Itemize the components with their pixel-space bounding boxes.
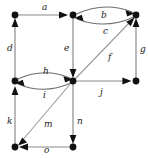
edge-label-b: b: [101, 11, 107, 20]
node-bottom-middle[interactable]: [70, 144, 77, 151]
node-center[interactable]: [70, 78, 77, 85]
edge-label-d: d: [7, 44, 13, 53]
edge-label-k: k: [7, 117, 12, 126]
edge-g: [133, 18, 140, 80]
edge-label-f: f: [108, 53, 111, 62]
edge-k: [12, 86, 19, 146]
edge-a: [16, 12, 68, 19]
edge-label-i: i: [43, 91, 46, 100]
graph-figure: a b c d e f g h i j k m n o: [0, 0, 148, 158]
graph-canvas: [0, 0, 148, 158]
edge-n: [70, 82, 77, 144]
node-middle-right[interactable]: [133, 78, 140, 85]
edge-label-n: n: [77, 117, 83, 126]
node-bottom-left[interactable]: [12, 144, 19, 151]
edge-i: [16, 80, 72, 90]
edge-label-a: a: [42, 3, 47, 12]
edge-label-c: c: [103, 27, 108, 36]
edge-label-h: h: [43, 67, 49, 76]
edge-e: [70, 16, 77, 78]
node-top-middle[interactable]: [70, 12, 77, 19]
edge-label-e: e: [64, 44, 69, 53]
node-top-left[interactable]: [12, 12, 19, 19]
node-middle-left[interactable]: [12, 78, 19, 85]
edge-label-o: o: [44, 146, 49, 155]
edge-label-g: g: [140, 45, 146, 54]
edge-label-m: m: [44, 120, 53, 129]
node-top-right[interactable]: [133, 12, 140, 19]
edge-label-j: j: [100, 88, 103, 97]
edge-j: [74, 78, 132, 85]
